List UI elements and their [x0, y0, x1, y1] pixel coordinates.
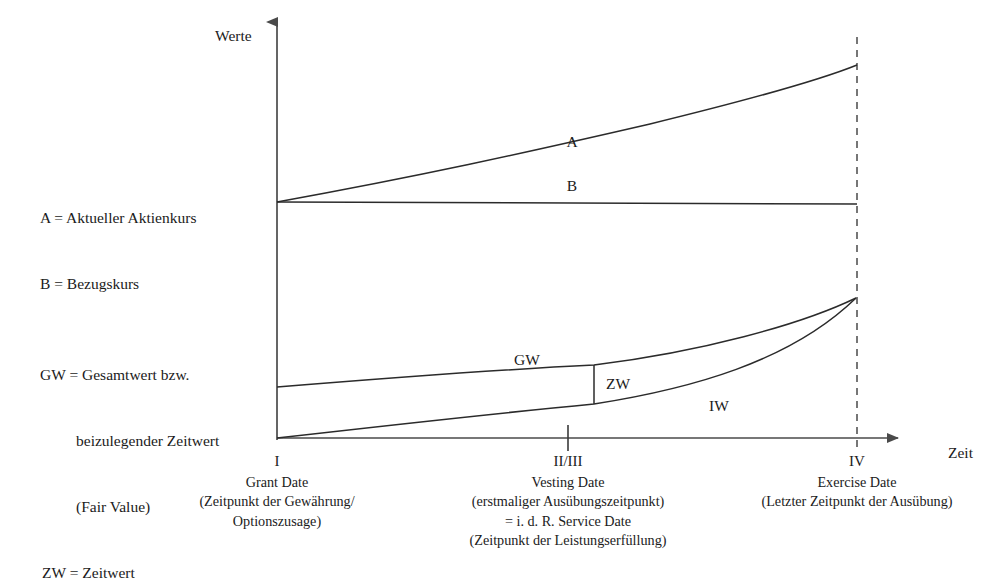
legend-line-gw-2: beizulegender Zeitwert	[40, 430, 219, 452]
curve-gw	[277, 298, 856, 387]
tick-roman-1: I	[199, 452, 354, 472]
tick-roman-2: II/III	[470, 452, 667, 472]
legend-price-definitions: A = Aktueller Aktienkurs B = Bezugskurs	[40, 163, 196, 339]
curve-label-iw: IW	[709, 397, 729, 415]
y-axis-label: Werte	[215, 27, 252, 45]
legend-line-gw-3: (Fair Value)	[40, 496, 219, 518]
x-tick-label-exercise-date: IV Exercise Date (Letzter Zeitpunkt der …	[761, 452, 952, 512]
legend-value-definitions: GW = Gesamtwert bzw. beizulegender Zeitw…	[40, 320, 219, 584]
x-tick-label-vesting-date: II/III Vesting Date (erstmaliger Ausübun…	[470, 452, 667, 551]
curve-iw	[277, 298, 856, 438]
legend-line-a: A = Aktueller Aktienkurs	[40, 207, 196, 229]
curve-label-b: B	[567, 177, 577, 195]
tick-2-line1: Vesting Date	[470, 473, 667, 493]
legend-line-gw-1: GW = Gesamtwert bzw.	[40, 364, 219, 386]
tick-3-line1: Exercise Date	[761, 473, 952, 493]
tick-2-line4: (Zeitpunkt der Leistungserfüllung)	[470, 531, 667, 551]
curve-label-gw: GW	[514, 351, 540, 369]
diagram-canvas: Werte Zeit A B GW ZW IW A = Aktueller Ak…	[0, 0, 1006, 584]
curve-label-a: A	[566, 133, 577, 151]
x-tick-label-grant-date: I Grant Date (Zeitpunkt der Gewährung/ O…	[199, 452, 354, 531]
tick-roman-3: IV	[761, 452, 952, 472]
tick-1-line2: (Zeitpunkt der Gewährung/	[199, 492, 354, 512]
tick-1-line3: Optionszusage)	[199, 512, 354, 532]
tick-1-line1: Grant Date	[199, 473, 354, 493]
tick-2-line2: (erstmaliger Ausübungszeitpunkt)	[470, 492, 667, 512]
legend-line-b: B = Bezugskurs	[40, 273, 196, 295]
curve-label-zw: ZW	[606, 375, 630, 393]
curve-b	[277, 202, 857, 204]
legend-line-zw: ZW = Zeitwert	[40, 562, 219, 584]
tick-2-line3: = i. d. R. Service Date	[470, 512, 667, 532]
tick-3-line2: (Letzter Zeitpunkt der Ausübung)	[761, 492, 952, 512]
